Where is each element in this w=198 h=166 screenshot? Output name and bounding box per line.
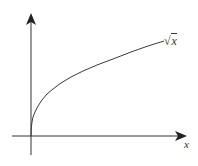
curve-label-sqrt-x: √x [164, 35, 177, 47]
sqrt-curve [31, 41, 164, 136]
sqrt-function-plot [0, 0, 198, 166]
radical-argument: x [171, 33, 177, 48]
x-axis-label: x [184, 139, 189, 150]
radical-sign: √ [164, 34, 171, 48]
